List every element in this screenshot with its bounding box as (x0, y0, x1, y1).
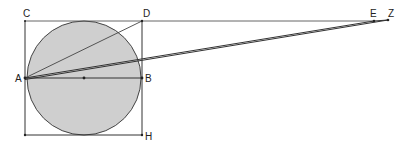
geometry-diagram: C D A B H E Z (0, 0, 410, 148)
point-center (83, 77, 86, 80)
label-H: H (145, 131, 152, 142)
point-B (141, 77, 144, 80)
label-B: B (145, 73, 152, 84)
point-E (373, 20, 376, 23)
point-D (141, 20, 143, 22)
point-C (24, 20, 26, 22)
label-C: C (23, 8, 30, 19)
label-E: E (370, 8, 377, 19)
point-A (24, 77, 27, 80)
point-H (141, 134, 143, 136)
point-Z (387, 19, 390, 22)
point-BL (24, 134, 26, 136)
label-Z: Z (388, 8, 394, 19)
label-A: A (15, 73, 22, 84)
label-D: D (143, 8, 150, 19)
